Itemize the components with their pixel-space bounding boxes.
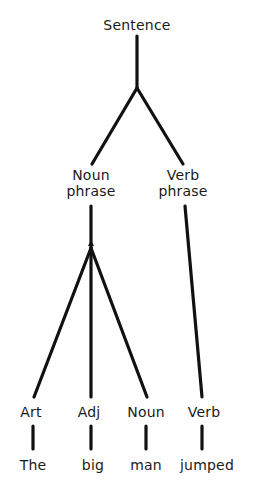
node-art: Art [20,404,41,420]
node-verb-phrase-line2: phrase [158,183,207,199]
edge-nounphrase-noun [91,248,147,397]
edge-verbphrase-verb [185,206,202,397]
node-sentence: Sentence [103,17,170,33]
word-man: man [130,457,162,473]
edge-nounphrase-art [34,248,91,397]
word-big: big [82,457,104,473]
node-noun-phrase-line1: Noun [66,167,115,183]
node-noun-phrase-line2: phrase [66,183,115,199]
node-noun: Noun [127,404,165,420]
node-noun-phrase: Noun phrase [66,167,115,199]
node-verb: Verb [188,404,221,420]
node-verb-phrase-line1: Verb [158,167,207,183]
node-verb-phrase: Verb phrase [158,167,207,199]
junction-marker [88,240,94,246]
edge-sentence-nounphrase [92,88,137,164]
word-the: The [20,457,47,473]
tree-edges [0,0,259,495]
word-jumped: jumped [180,457,234,473]
node-adj: Adj [78,404,101,420]
edge-sentence-verbphrase [137,88,183,164]
